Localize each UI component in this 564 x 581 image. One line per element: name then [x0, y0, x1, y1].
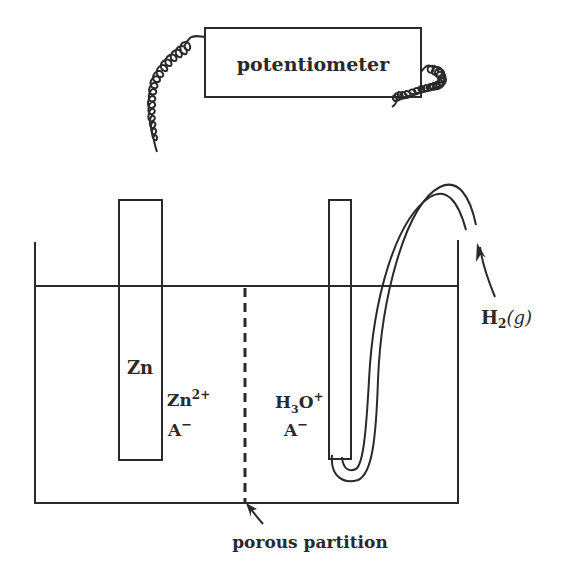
zn-electrode-label: Zn: [127, 357, 153, 378]
zn-electrode: Zn: [119, 200, 162, 460]
arrowhead-icon: [476, 243, 486, 262]
potentiometer-label: potentiometer: [237, 53, 390, 75]
hydrogen-electrode: [329, 200, 351, 459]
electrochemical-cell-diagram: potentiometer Zn Zn2+ A− H3O+ A−: [0, 0, 564, 581]
hydrogen-gas-label: H2(g): [481, 307, 532, 331]
left-anion-label: A−: [167, 417, 192, 440]
zn-ion-label: Zn2+: [167, 388, 210, 410]
potentiometer: potentiometer: [205, 28, 421, 97]
hydronium-ion-label: H3O+: [275, 390, 324, 416]
hydrogen-gas-tube: [332, 185, 476, 481]
porous-partition-label: porous partition: [232, 532, 388, 552]
partition-arrow: [246, 503, 263, 524]
left-ions: Zn2+ A−: [167, 388, 210, 440]
left-coiled-wire: [148, 36, 205, 152]
right-coiled-wire: [392, 65, 446, 107]
hydrogen-gas-arrow: [476, 243, 495, 297]
right-anion-label: A−: [283, 417, 308, 440]
right-ions: H3O+ A−: [275, 390, 324, 440]
